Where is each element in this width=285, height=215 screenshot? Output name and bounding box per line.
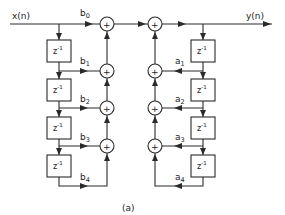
adder-right-3: + <box>148 139 162 153</box>
arrow-up <box>152 32 158 39</box>
delay-right-1 <box>191 40 215 62</box>
arrow-down <box>200 33 206 40</box>
delay-left-2 <box>47 79 71 101</box>
delay-left-1 <box>47 40 71 62</box>
coef-a2: a2 <box>175 94 185 106</box>
arrow-up <box>152 79 158 86</box>
arrow-output <box>263 21 271 27</box>
adder-right-0: + <box>148 17 162 31</box>
arrow-down <box>56 148 62 155</box>
adder-left-3: + <box>100 139 114 153</box>
delay-right-4 <box>191 155 215 177</box>
adder-left-1: + <box>100 64 114 78</box>
output-label: y(n) <box>246 11 264 21</box>
adder-left-0: + <box>100 17 114 31</box>
coef-b1: b1 <box>80 56 90 68</box>
filter-diagram: x(n) b0 z-1 b1 z-1 b2 z-1 b3 z-1 b4 + + <box>0 0 285 215</box>
svg-text:+: + <box>151 142 159 152</box>
arrow-down <box>56 110 62 117</box>
figure-caption: (a) <box>122 203 135 213</box>
arrow-down <box>200 72 206 79</box>
svg-text:+: + <box>103 142 111 152</box>
arrow-up <box>104 79 110 86</box>
arrow-up <box>152 116 158 123</box>
arrow-right <box>178 21 186 27</box>
svg-text:+: + <box>151 20 159 30</box>
coef-a3: a3 <box>175 132 185 144</box>
svg-text:+: + <box>151 104 159 114</box>
coef-b3: b3 <box>80 132 90 144</box>
svg-text:+: + <box>103 104 111 114</box>
coef-b0: b0 <box>80 8 90 20</box>
arrow-down <box>200 148 206 155</box>
delay-right-2 <box>191 79 215 101</box>
svg-text:+: + <box>103 20 111 30</box>
adder-right-1: + <box>148 64 162 78</box>
coef-a4: a4 <box>175 172 185 184</box>
arrow-b1 <box>80 68 88 74</box>
delay-right-3 <box>191 117 215 139</box>
svg-text:+: + <box>151 67 159 77</box>
arrow-down <box>56 72 62 79</box>
arrow-up <box>104 32 110 39</box>
delay-left-4 <box>47 155 71 177</box>
arrow-down <box>56 33 62 40</box>
arrow-up <box>152 154 158 161</box>
delay-left-3 <box>47 117 71 139</box>
svg-text:+: + <box>103 67 111 77</box>
arrow-down <box>200 110 206 117</box>
coef-b2: b2 <box>80 94 90 106</box>
arrow-up <box>104 154 110 161</box>
adder-left-2: + <box>100 101 114 115</box>
input-label: x(n) <box>12 11 30 21</box>
coef-a1: a1 <box>175 56 185 68</box>
arrow-a1 <box>174 68 182 74</box>
adder-right-2: + <box>148 101 162 115</box>
coef-b4: b4 <box>80 172 90 184</box>
arrow-b0 <box>85 21 93 27</box>
arrow-up <box>104 116 110 123</box>
arrow-right <box>138 21 146 27</box>
